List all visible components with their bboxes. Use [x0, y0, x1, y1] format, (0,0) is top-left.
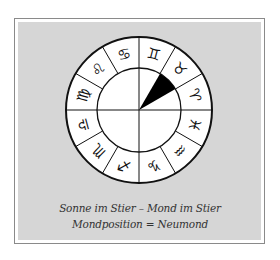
wheel-base	[66, 37, 212, 183]
caption-moon-phase: Mondposition = Neumond	[0, 218, 280, 230]
caption-sun-moon-signs: Sonne im Stier – Mond im Stier	[0, 202, 280, 214]
